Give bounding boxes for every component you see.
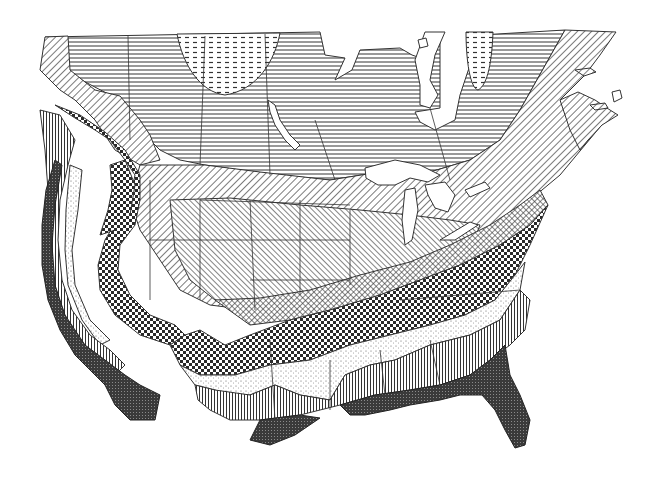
island-anticosti [418,38,428,48]
hardiness-zone-map [0,0,665,496]
map-canvas [0,0,665,496]
island-cape-breton [612,90,622,102]
zone-9-texas-tip [250,415,320,445]
